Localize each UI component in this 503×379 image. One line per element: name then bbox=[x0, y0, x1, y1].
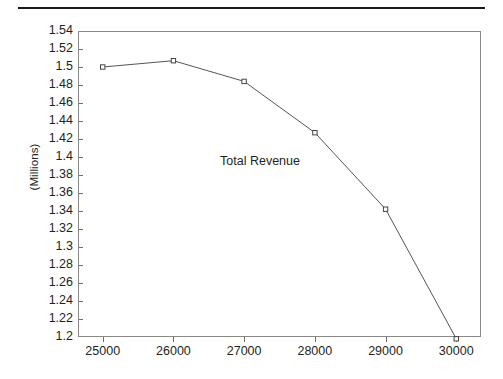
chart-figure: (Millions) 1.21.221.241.261.281.31.321.3… bbox=[0, 0, 503, 379]
series-data-point bbox=[454, 337, 458, 341]
series-line-total-revenue bbox=[103, 61, 457, 339]
series-data-point bbox=[313, 131, 317, 135]
series-annotation-total-revenue: Total Revenue bbox=[160, 154, 360, 168]
series-data-point bbox=[242, 79, 246, 83]
series-markers bbox=[101, 59, 459, 342]
series-data-point bbox=[171, 59, 175, 63]
series-plot bbox=[0, 0, 503, 379]
series-data-point bbox=[101, 65, 105, 69]
series-data-point bbox=[383, 207, 387, 211]
